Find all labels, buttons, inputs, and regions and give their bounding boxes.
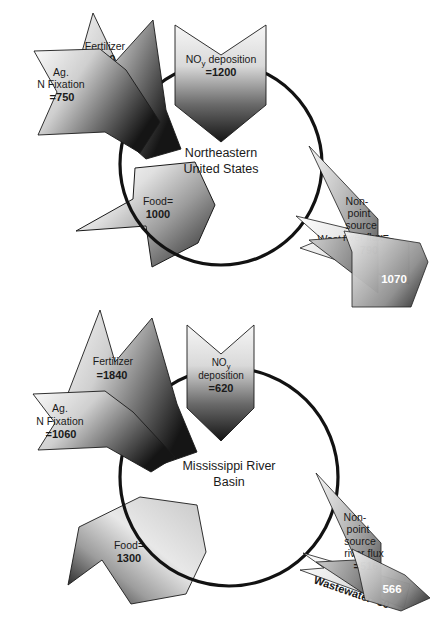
- npsrf-line2: point: [348, 207, 371, 219]
- noy-deposition-value: =1200: [206, 66, 237, 78]
- agfix-label-line2: N Fixation: [37, 78, 84, 90]
- input-arrow-noy-deposition[interactable]: NOy deposition =1200: [175, 25, 266, 142]
- food-label-value: 1000: [146, 208, 170, 220]
- npsrf2-line2: point: [347, 523, 370, 535]
- total-badge-value: 1070: [381, 273, 407, 285]
- nitrogen-budget-diagram: Food= 1000 Fertilizer =600 Ag. N Fixatio…: [0, 0, 436, 622]
- total-badge-2-value: 566: [382, 583, 401, 595]
- fertilizer2-label: Fertilizer: [93, 355, 134, 367]
- noy-rest: deposition: [205, 53, 256, 65]
- output-arrow-food[interactable]: Food= 1000: [76, 162, 215, 267]
- agfix-value: =750: [50, 91, 75, 103]
- noy2-rest: deposition: [198, 370, 244, 381]
- total-export-wedge[interactable]: 1070: [344, 231, 428, 307]
- agfix2-label-line2: N Fixation: [36, 415, 83, 427]
- panel-northeastern-us: Food= 1000 Fertilizer =600 Ag. N Fixatio…: [34, 13, 428, 307]
- agfix-label-line1: Ag.: [53, 66, 69, 78]
- agfix2-label-line1: Ag.: [52, 402, 68, 414]
- npsrf2-line3: source: [344, 535, 376, 547]
- panel-center-label-line2: United States: [183, 162, 258, 176]
- noy-main: NO: [186, 53, 202, 65]
- fertilizer2-value: =1840: [97, 369, 128, 381]
- noy2-main: NO: [212, 357, 227, 368]
- noy-deposition-2-value: =620: [209, 382, 234, 394]
- agfix2-value: =1060: [46, 428, 77, 440]
- npsrf2-line1: Non-: [344, 511, 367, 523]
- figure-canvas: Food= 1000 Fertilizer =600 Ag. N Fixatio…: [0, 0, 436, 622]
- food2-label-value: 1300: [117, 552, 141, 564]
- input-arrow-noy-deposition-2[interactable]: NOy deposition =620: [187, 325, 254, 441]
- panel-mississippi-river-basin: Food= 1300 Fertilizer =1840 Ag. N Fixati…: [33, 310, 430, 611]
- panel-2-center-label-line2: Basin: [213, 475, 244, 489]
- npsrf-line1: Non-: [346, 195, 369, 207]
- output-arrow-food-2[interactable]: Food= 1300: [68, 497, 206, 604]
- food-label-line1: Food=: [143, 195, 173, 207]
- panel-center-label-line1: Northeastern: [185, 146, 257, 160]
- panel-2-center-label-line1: Mississippi River: [182, 459, 275, 473]
- npsrf-line3: source: [345, 219, 377, 231]
